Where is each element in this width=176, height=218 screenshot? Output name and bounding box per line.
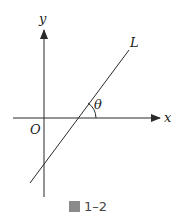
line-label: L [130,36,139,49]
figure-caption: 1–2 [0,199,176,214]
coordinate-diagram [0,0,176,218]
origin-label: O [30,123,41,136]
x-axis-label: x [164,111,171,124]
caption-number: 1–2 [84,199,107,214]
line-l [30,50,129,183]
angle-label: θ [94,98,102,111]
figure-char-icon [69,201,80,212]
y-axis-label: y [39,12,46,25]
